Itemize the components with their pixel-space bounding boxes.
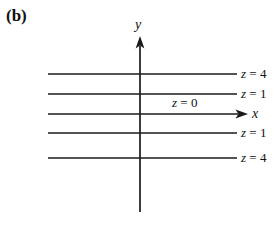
level-label-value: 1 xyxy=(260,86,267,101)
level-label-equals: = xyxy=(180,95,187,110)
x-axis xyxy=(48,110,248,119)
level-label-value: 0 xyxy=(191,95,198,110)
level-label-z0: z = 0 xyxy=(172,96,197,109)
level-label-z1-upper: z = 1 xyxy=(241,87,266,100)
level-label-z1-lower: z = 1 xyxy=(241,126,266,139)
level-label-value: 1 xyxy=(260,125,267,140)
level-label-equals: = xyxy=(249,125,256,140)
level-label-equals: = xyxy=(249,86,256,101)
level-label-value: 4 xyxy=(260,66,267,81)
y-axis xyxy=(136,36,145,212)
y-axis-label: y xyxy=(135,18,141,32)
level-label-value: 4 xyxy=(260,150,267,165)
level-label-z4-lower: z = 4 xyxy=(241,151,266,164)
level-label-z4-upper: z = 4 xyxy=(241,67,266,80)
x-axis-label: x xyxy=(252,107,258,121)
figure-panel: (b) y x z = 4 z = 1 z = 0 z = 1 xyxy=(0,0,280,228)
level-label-equals: = xyxy=(249,150,256,165)
coordinate-plot xyxy=(0,0,280,228)
level-label-equals: = xyxy=(249,66,256,81)
